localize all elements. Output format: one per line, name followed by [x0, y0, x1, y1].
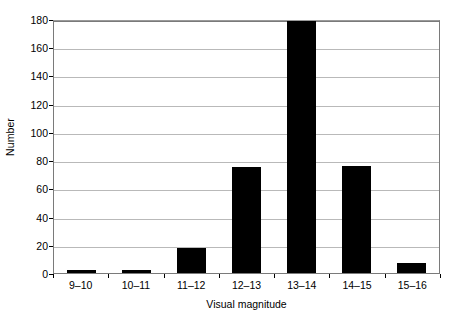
- bar: [122, 270, 151, 273]
- bar: [232, 167, 261, 273]
- y-axis-tick-label: 20: [18, 241, 48, 251]
- y-axis-tick-mark: [49, 48, 53, 49]
- bar-slot: [164, 21, 219, 273]
- bar-slot: [219, 21, 274, 273]
- x-axis-title: Visual magnitude: [53, 298, 440, 310]
- y-axis-tick-mark: [49, 246, 53, 247]
- x-axis-tick-mark: [108, 274, 109, 278]
- x-axis-tick-mark: [53, 274, 54, 278]
- y-axis-tick-label: 0: [18, 269, 48, 279]
- bar: [177, 248, 206, 273]
- x-axis-tick-labels: 9–1010–1111–1212–1313–1414–1515–16: [53, 279, 440, 291]
- y-axis-tick-label: 100: [18, 128, 48, 138]
- y-axis-tick-label: 160: [18, 43, 48, 53]
- plot-area: [53, 20, 440, 274]
- y-axis-tick-label: 120: [18, 100, 48, 110]
- x-axis-tick-mark: [274, 274, 275, 278]
- x-axis-tick-label: 13–14: [274, 279, 329, 291]
- y-axis-tick-label: 140: [18, 71, 48, 81]
- x-axis-tick-label: 14–15: [329, 279, 384, 291]
- y-axis-title-label: Number: [4, 118, 16, 156]
- y-axis-tick-label: 180: [18, 15, 48, 25]
- x-axis-tick-mark: [329, 274, 330, 278]
- x-axis-tick-label: 10–11: [108, 279, 163, 291]
- x-axis-tick-label: 9–10: [53, 279, 108, 291]
- y-axis-tick-label: 40: [18, 213, 48, 223]
- bar-slot: [329, 21, 384, 273]
- bar: [397, 263, 426, 273]
- y-axis-tick-mark: [49, 133, 53, 134]
- bar-slot: [54, 21, 109, 273]
- y-axis-title: Number: [0, 0, 20, 274]
- y-axis-tick-mark: [49, 218, 53, 219]
- x-axis-tick-label: 12–13: [219, 279, 274, 291]
- x-axis-tick-mark: [164, 274, 165, 278]
- y-axis-tick-mark: [49, 161, 53, 162]
- x-axis-tick-mark: [385, 274, 386, 278]
- y-axis-tick-label: 60: [18, 184, 48, 194]
- x-axis-tick-label: 11–12: [164, 279, 219, 291]
- x-axis-tick-mark: [219, 274, 220, 278]
- bar-slot: [274, 21, 329, 273]
- y-axis-tick-mark: [49, 20, 53, 21]
- bar: [67, 270, 96, 273]
- y-axis-tick-mark: [49, 76, 53, 77]
- x-axis-tick-mark: [440, 274, 441, 278]
- y-axis-tick-mark: [49, 189, 53, 190]
- bar-chart-figure: Number 020406080100120140160180 9–1010–1…: [0, 0, 456, 320]
- bar: [342, 166, 371, 273]
- bar: [287, 20, 316, 273]
- y-axis-tick-label: 80: [18, 156, 48, 166]
- bar-slot: [109, 21, 164, 273]
- bar-series: [54, 21, 439, 273]
- bar-slot: [384, 21, 439, 273]
- y-axis-tick-mark: [49, 105, 53, 106]
- y-axis-tick-labels: 020406080100120140160180: [18, 20, 48, 274]
- x-axis-tick-label: 15–16: [385, 279, 440, 291]
